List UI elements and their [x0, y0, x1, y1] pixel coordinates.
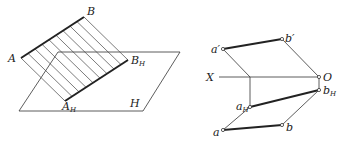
left-spatial-figure: A B BH AH H [7, 5, 180, 114]
right-projection-figure: a′ b′ X O aH bH a b [205, 32, 337, 139]
label-ah: AH [61, 100, 77, 114]
label-b-prime: b′ [285, 32, 295, 45]
label-b-proj: b [286, 121, 293, 134]
label-bh-proj: bH [323, 84, 337, 98]
label-b: B [86, 5, 95, 18]
label-a: A [7, 52, 16, 65]
construct-a-prime [223, 49, 250, 77]
label-a-prime: a′ [211, 43, 221, 56]
label-o: O [323, 71, 332, 84]
line-ah-bh-projection [250, 90, 319, 107]
point-bh [317, 88, 320, 91]
label-plane-h: H [129, 97, 140, 110]
plane-h [19, 52, 180, 111]
point-a [221, 128, 224, 131]
point-ah [248, 105, 251, 108]
line-a-prime-b-prime [223, 39, 282, 49]
label-a-proj: a [213, 126, 220, 139]
line-ah-bh [65, 60, 128, 101]
hatch-lines [21, 17, 128, 101]
label-bh: BH [130, 54, 146, 68]
label-ah-proj: aH [236, 100, 250, 114]
label-x: X [205, 71, 215, 84]
diagram-canvas: A B BH AH H a′ b′ X O aH bH a b [0, 0, 343, 150]
point-o [317, 75, 320, 78]
point-a-prime [221, 47, 224, 50]
line-ab-projection [223, 125, 282, 130]
point-b-prime [280, 37, 283, 40]
point-b [280, 123, 283, 126]
